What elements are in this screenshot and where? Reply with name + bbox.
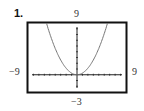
axes	[32, 27, 122, 88]
graph-window	[0, 0, 144, 111]
